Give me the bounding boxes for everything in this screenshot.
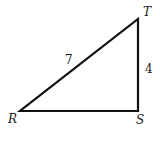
vertex-label-R: R [7, 112, 17, 126]
triangle-diagram: T R S 7 4 [0, 0, 160, 142]
triangle-RST [20, 19, 138, 111]
side-label-RT: 7 [65, 53, 73, 67]
vertex-label-S: S [136, 113, 144, 127]
side-label-ST: 4 [145, 62, 153, 76]
vertex-label-T: T [143, 5, 152, 19]
